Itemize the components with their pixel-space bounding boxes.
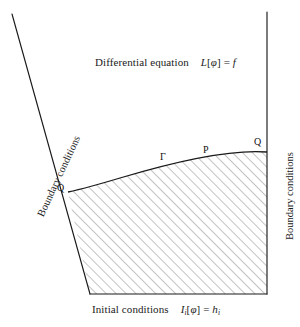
equals-sign: = [224, 56, 230, 68]
rhs-h-subscript: i [218, 308, 220, 317]
initial-conditions-text: Initial conditions [92, 303, 169, 315]
differential-equation-formula: L[φ] = f [201, 56, 236, 68]
point-label-p: P [203, 145, 209, 155]
rhs-f: f [233, 56, 236, 68]
figure-canvas [0, 0, 300, 327]
point-label-q-right: Q [254, 137, 261, 147]
initial-conditions-label: Initial conditionsIi[φ] = hi [92, 304, 220, 316]
left-boundary-line [12, 14, 90, 294]
differential-equation-text: Differential equation [95, 56, 189, 68]
solution-region-hatch [68, 152, 267, 294]
bracket-close: ] [197, 303, 201, 315]
pde-domain-figure: Differential equationL[φ] = f Initial co… [0, 0, 300, 327]
differential-equation-label: Differential equationL[φ] = f [95, 57, 236, 68]
equals-sign: = [203, 303, 209, 315]
initial-conditions-formula: Ii[φ] = hi [181, 303, 221, 315]
point-label-gamma: Γ [160, 152, 166, 162]
right-boundary-conditions-label: Boundary conditions [285, 152, 296, 240]
bracket-close: ] [217, 56, 221, 68]
